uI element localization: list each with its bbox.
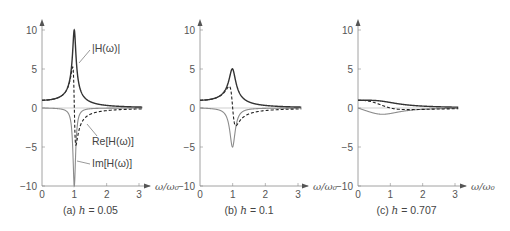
y-tick-label: 10 <box>342 25 354 36</box>
caption-value: = 0.05 <box>86 204 119 216</box>
x-tick-label: 1 <box>72 189 78 200</box>
caption-prefix: (c) <box>376 204 391 216</box>
caption-value: = 0.1 <box>247 204 274 216</box>
x-axis-arrow-icon <box>460 184 467 189</box>
x-tick-label: 2 <box>263 189 269 200</box>
leader-line <box>79 50 90 63</box>
y-tick-label: 0 <box>31 103 37 114</box>
x-axis-label: ω/ω₀ <box>155 181 179 192</box>
x-tick-label: 3 <box>452 189 458 200</box>
label-real-part: Re[H(ω)] <box>92 135 134 147</box>
x-tick-label: 0 <box>355 189 361 200</box>
caption-prefix: (b) <box>224 204 240 216</box>
x-tick-label: 1 <box>388 189 394 200</box>
x-tick-label: 0 <box>39 189 45 200</box>
frequency-response-figure: 1050−5−100123ω/ω₀|H(ω)|Re[H(ω)]Im[H(ω)](… <box>0 0 510 231</box>
x-tick-label: 2 <box>104 189 110 200</box>
panel-caption: (b) h = 0.1 <box>224 204 273 216</box>
y-tick-label: 10 <box>184 25 196 36</box>
y-tick-label: 0 <box>189 103 195 114</box>
y-tick-label: −10 <box>20 181 37 192</box>
panel-caption: (a) h = 0.05 <box>63 204 118 216</box>
panel-c: 1050−5−100123ω/ω₀(c) h = 0.707 <box>336 19 495 216</box>
series-magnitude <box>358 100 458 107</box>
x-tick-label: 2 <box>420 189 426 200</box>
x-axis-label: ω/ω₀ <box>471 181 495 192</box>
y-axis-arrow-icon <box>356 19 361 26</box>
y-tick-label: −5 <box>342 142 354 153</box>
x-axis-arrow-icon <box>302 184 309 189</box>
caption-variable: h <box>392 204 399 216</box>
y-tick-label: 5 <box>347 64 353 75</box>
panel-caption: (c) h = 0.707 <box>376 204 436 216</box>
y-tick-label: 0 <box>347 103 353 114</box>
caption-value: = 0.707 <box>398 204 436 216</box>
caption-variable: h <box>240 204 247 216</box>
y-tick-label: −5 <box>26 142 38 153</box>
panel-a: 1050−5−100123ω/ω₀|H(ω)|Re[H(ω)]Im[H(ω)](… <box>20 19 179 216</box>
x-tick-label: 0 <box>197 189 203 200</box>
y-axis-arrow-icon <box>198 19 203 26</box>
y-tick-label: −10 <box>336 181 353 192</box>
caption-prefix: (a) <box>63 204 79 216</box>
y-tick-label: 5 <box>31 64 37 75</box>
y-tick-label: −5 <box>184 142 196 153</box>
x-axis-label: ω/ω₀ <box>313 181 337 192</box>
x-tick-label: 3 <box>136 189 142 200</box>
label-magnitude: |H(ω)| <box>92 42 120 54</box>
label-imag-part: Im[H(ω)] <box>92 157 132 169</box>
x-tick-label: 1 <box>230 189 236 200</box>
y-tick-label: −10 <box>178 181 195 192</box>
y-tick-label: 10 <box>26 25 38 36</box>
panel-b: 1050−5−100123ω/ω₀(b) h = 0.1 <box>178 19 337 216</box>
series-imag-part <box>200 108 301 147</box>
y-axis-arrow-icon <box>40 19 45 26</box>
leader-line <box>77 161 90 164</box>
series-magnitude <box>200 69 301 107</box>
caption-variable: h <box>79 204 86 216</box>
axes: 1050−5−100123ω/ω₀ <box>178 19 337 200</box>
y-tick-label: 5 <box>189 64 195 75</box>
x-axis-arrow-icon <box>144 184 151 189</box>
x-tick-label: 3 <box>295 189 301 200</box>
